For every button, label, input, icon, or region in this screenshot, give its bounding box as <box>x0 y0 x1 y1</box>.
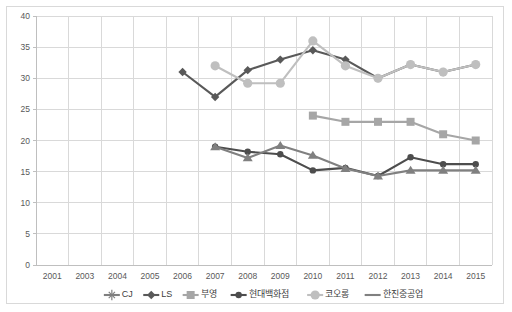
legend-item-부영[interactable] <box>183 291 199 299</box>
legend-item-LS[interactable] <box>143 291 159 299</box>
chart-container: 0510152025303540200120032004200520062007… <box>0 0 512 312</box>
legend-item-코오롱[interactable] <box>307 290 323 299</box>
data-point-marker-square <box>472 137 480 145</box>
data-point-marker-circle-small <box>310 167 316 173</box>
legend-item-현대백화점[interactable] <box>231 292 247 298</box>
y-axis-tick-label: 40 <box>21 11 31 21</box>
x-axis-tick-label: 2009 <box>271 271 290 281</box>
data-point-marker-circle <box>373 74 382 83</box>
legend-item-CJ[interactable] <box>104 290 120 300</box>
legend-label: CJ <box>122 289 133 299</box>
legend-label: 한진중공업 <box>383 289 423 299</box>
series-6 <box>210 141 481 180</box>
x-axis-tick-label: 2013 <box>401 271 420 281</box>
x-axis-tick-label: 2014 <box>434 271 453 281</box>
x-axis-tick-label: 2006 <box>173 271 192 281</box>
data-point-marker-square <box>341 118 349 126</box>
x-axis-tick-label: 2004 <box>108 271 127 281</box>
y-axis-tick-label: 35 <box>21 42 31 52</box>
data-point-marker-diamond <box>147 291 155 299</box>
x-axis-tick-label: 2015 <box>466 271 485 281</box>
y-axis-tick-label: 15 <box>21 167 31 177</box>
chart-legend: CJLS부영현대백화점코오롱한진중공업 <box>104 288 423 300</box>
data-point-marker-circle <box>276 79 285 88</box>
data-point-marker-circle <box>311 290 320 299</box>
data-point-marker-circle <box>341 61 350 70</box>
data-point-marker-diamond <box>276 55 284 63</box>
data-point-marker-circle <box>308 36 317 45</box>
data-point-marker-square <box>407 118 415 126</box>
legend-label: 코오롱 <box>325 289 349 299</box>
legend-label: 부영 <box>201 289 217 299</box>
x-axis-tick-label: 2003 <box>75 271 94 281</box>
x-axis-tick-label: 2011 <box>336 271 355 281</box>
data-point-marker-circle-small <box>235 292 241 298</box>
data-point-marker-circle-small <box>277 151 283 157</box>
data-point-marker-circle <box>439 67 448 76</box>
x-axis-tick-label: 2005 <box>141 271 160 281</box>
data-point-marker-triangle <box>210 142 220 150</box>
data-point-marker-square <box>374 118 382 126</box>
legend-label: 현대백화점 <box>249 288 289 299</box>
series-4 <box>212 144 479 180</box>
data-point-marker-circle <box>406 60 415 69</box>
data-point-marker-triangle <box>275 141 285 149</box>
data-point-marker-circle <box>243 79 252 88</box>
data-point-marker-square <box>309 112 317 120</box>
y-axis-tick-label: 10 <box>21 198 31 208</box>
x-axis-tick-label: 2007 <box>206 271 225 281</box>
data-point-marker-square <box>187 291 195 299</box>
y-axis-tick-label: 0 <box>25 260 30 270</box>
data-point-marker-circle <box>471 60 480 69</box>
y-axis-tick-label: 30 <box>21 73 31 83</box>
data-point-marker-star <box>107 290 117 300</box>
x-axis-tick-label: 2001 <box>43 271 62 281</box>
y-axis-tick-label: 25 <box>21 104 31 114</box>
data-point-marker-circle-small <box>407 154 413 160</box>
data-point-marker-square <box>439 130 447 138</box>
x-axis-tick-label: 2008 <box>238 271 257 281</box>
data-point-marker-circle <box>211 61 220 70</box>
y-axis-tick-label: 5 <box>25 229 30 239</box>
series-5 <box>211 36 481 88</box>
x-axis-tick-label: 2012 <box>369 271 388 281</box>
legend-label: LS <box>161 289 172 299</box>
line-chart: 0510152025303540200120032004200520062007… <box>0 0 512 312</box>
x-axis-tick-label: 2010 <box>303 271 322 281</box>
y-axis-tick-label: 20 <box>21 136 31 146</box>
